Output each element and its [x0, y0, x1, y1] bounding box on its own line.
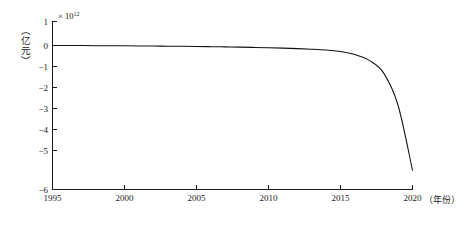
- y-tick-label: −5: [38, 146, 48, 156]
- y-axis-exponent: × 1012: [58, 11, 79, 22]
- y-tick-label: −2: [38, 83, 48, 93]
- plot-area: × 1012 1 0 −1 −2 −3 −4 −5 −6 1995 2: [0, 0, 469, 226]
- x-tick-group: 1995 2000 2005 2010 2015 2020: [44, 185, 423, 203]
- x-tick-label: 2015: [332, 193, 351, 203]
- chart-figure: （亿元） （年份） × 1012 1 0 −1 −2 −3 −4 −5 −6: [0, 0, 469, 226]
- x-tick-label: 2010: [260, 193, 279, 203]
- y-tick-label: −1: [38, 62, 48, 72]
- exponent-base: × 10: [58, 11, 73, 21]
- y-tick-group: 1 0 −1 −2 −3 −4 −5 −6: [38, 17, 57, 195]
- x-tick-label: 2005: [188, 193, 207, 203]
- x-tick-label: 2020: [404, 193, 423, 203]
- data-series-line: [53, 46, 413, 171]
- y-tick-label: −3: [38, 104, 48, 114]
- x-tick-label: 2000: [116, 193, 135, 203]
- y-tick-label: 1: [44, 17, 49, 27]
- y-tick-label: −4: [38, 125, 48, 135]
- x-tick-label: 1995: [44, 193, 63, 203]
- y-tick-label: 0: [44, 41, 49, 51]
- exponent-power: 12: [73, 11, 79, 17]
